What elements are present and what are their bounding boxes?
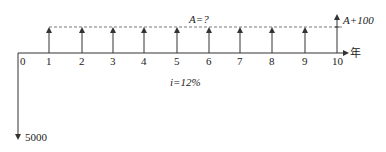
period-label: 6 (206, 55, 212, 67)
period-label: 10 (332, 55, 344, 67)
period-label: 3 (110, 55, 116, 67)
initial-outflow-label: 5000 (25, 131, 48, 143)
origin-label: 0 (20, 55, 26, 67)
axis-unit-label: 年 (350, 46, 361, 59)
period-label: 7 (237, 55, 243, 67)
annuity-label: A=? (188, 13, 209, 25)
period-label: 2 (79, 55, 85, 67)
period-label: 5 (174, 55, 180, 67)
period-label: 9 (302, 55, 308, 67)
cash-flow-diagram: 0 1 2 3 4 5 6 7 8 9 10 年 A=? A+100 i=12%… (0, 0, 386, 152)
period-label: 4 (141, 55, 147, 67)
period-label: 1 (46, 55, 52, 67)
interest-rate-label: i=12% (170, 76, 201, 88)
final-payment-label: A+100 (342, 14, 374, 26)
period-label: 8 (269, 55, 275, 67)
